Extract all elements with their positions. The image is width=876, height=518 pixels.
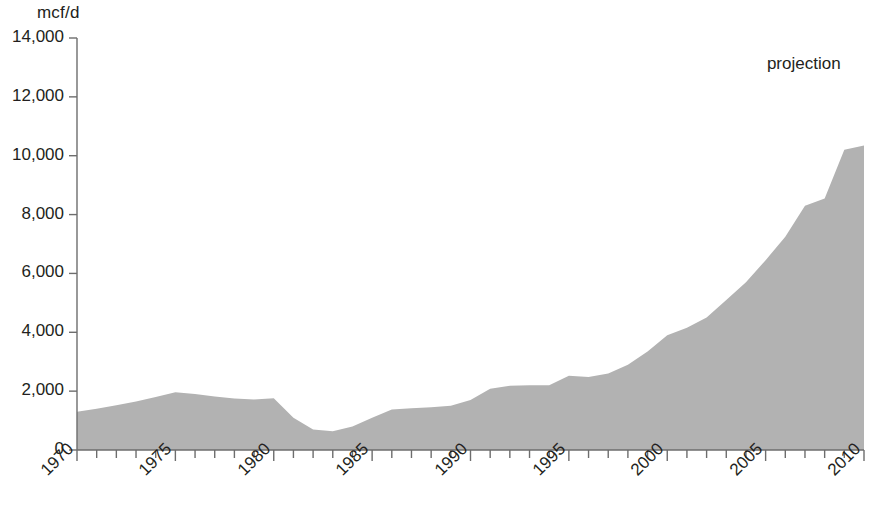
area-chart-plot [0,0,876,518]
projection-annotation: projection [767,54,841,74]
y-tick-label: 2,000 [0,380,64,400]
area-series-production [77,145,864,450]
y-tick-label: 14,000 [0,27,64,47]
y-tick-label: 8,000 [0,204,64,224]
y-tick-label: 4,000 [0,321,64,341]
y-tick-label: 6,000 [0,262,64,282]
y-tick-label: 10,000 [0,145,64,165]
y-tick-label: 12,000 [0,86,64,106]
y-tick-marks-group [69,38,77,450]
area-series-group [77,145,864,450]
chart-figure: mcf/d 14,00012,00010,0008,0006,0004,0002… [0,0,876,518]
